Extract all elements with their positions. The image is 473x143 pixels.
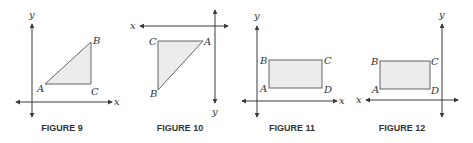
rectangle-abcd xyxy=(269,60,322,88)
x-axis-label: x xyxy=(339,95,345,106)
rectangle-abcd xyxy=(380,61,430,89)
x-axis-label: x xyxy=(114,96,120,107)
y-axis-label: y xyxy=(253,10,260,21)
y-axis-label: y xyxy=(211,106,218,117)
y-axis-label: y xyxy=(438,9,445,20)
triangle-abc xyxy=(158,41,203,90)
figure-caption: FIGURE 12 xyxy=(379,123,426,133)
vertex-c-label: C xyxy=(91,86,99,97)
vertex-b-label: B xyxy=(149,88,157,99)
figure-10: x y C A B FIGURE 10 xyxy=(130,10,228,133)
vertex-c-label: C xyxy=(431,56,439,67)
y-axis-label: y xyxy=(28,9,35,20)
x-axis-label: x xyxy=(356,94,362,105)
vertex-d-label: D xyxy=(430,85,439,96)
vertex-a-label: A xyxy=(259,83,267,94)
figure-12: y x B C A D FIGURE 12 xyxy=(356,9,458,133)
vertex-a-label: A xyxy=(203,36,211,47)
vertex-c-label: C xyxy=(149,36,157,47)
vertex-a-label: A xyxy=(371,84,379,95)
figure-11: y x B C A D FIGURE 11 xyxy=(242,10,345,133)
vertex-b-label: B xyxy=(259,55,267,66)
vertex-d-label: D xyxy=(323,84,332,95)
figure-9: y x A B C FIGURE 9 xyxy=(16,9,120,133)
vertex-a-label: A xyxy=(36,83,44,94)
vertex-b-label: B xyxy=(370,56,378,67)
figures-canvas: y x A B C FIGURE 9 x y C A B FIGURE 10 y… xyxy=(0,0,473,143)
vertex-b-label: B xyxy=(92,35,100,46)
figure-caption: FIGURE 9 xyxy=(41,123,83,133)
figure-caption: FIGURE 10 xyxy=(157,123,204,133)
vertex-c-label: C xyxy=(324,55,332,66)
triangle-abc xyxy=(45,42,91,84)
figure-caption: FIGURE 11 xyxy=(269,123,315,133)
x-axis-label: x xyxy=(130,20,136,31)
